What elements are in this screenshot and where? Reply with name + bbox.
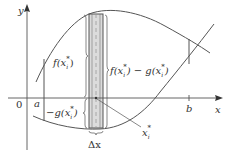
neg-g-label: −g(xi*)	[46, 105, 78, 120]
origin-label: 0	[16, 99, 22, 110]
y-axis-arrow-icon	[24, 4, 30, 12]
y-axis-label: y	[17, 5, 24, 16]
f-xi-label: f(xi*)	[52, 55, 74, 70]
sample-point	[95, 97, 97, 99]
a-label: a	[34, 98, 40, 109]
x-axis-label: x	[215, 104, 221, 115]
brace-f	[84, 15, 88, 97]
delta-x-label: Δx	[88, 139, 101, 150]
b-label: b	[186, 103, 192, 114]
xi-leader-line	[97, 99, 141, 127]
brace-delta-x	[89, 131, 103, 135]
x-axis-arrow-icon	[215, 95, 223, 101]
f-minus-g-label: f(xi*) − g(xi*)	[109, 63, 169, 78]
brace-neg-g	[83, 99, 87, 128]
area-between-curves-diagram: y x 0 a b f(xi*) f(xi*) − g(xi*) −g(xi*)…	[0, 0, 228, 153]
brace-f-minus-g	[105, 15, 109, 128]
xi-star-label: xi*	[142, 124, 152, 140]
